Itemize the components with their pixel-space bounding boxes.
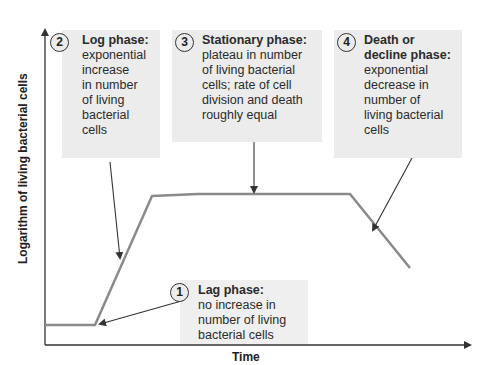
log-phase-line: increase: [82, 63, 155, 78]
stationary-phase-line: of living bacterial: [202, 63, 317, 78]
death-phase-line: decrease in: [364, 78, 457, 93]
death-phase-line: cells: [364, 123, 457, 138]
y-axis-label: Logarithm of living bacterial cells: [16, 94, 30, 264]
stationary-phase-line: cells; rate of cell: [202, 78, 317, 93]
lag-phase-box: 1 Lag phase: no increase in number of li…: [180, 280, 308, 344]
death-phase-title: decline phase:: [364, 48, 457, 63]
death-phase-line: living bacterial: [364, 108, 457, 123]
stationary-phase-line: division and death: [202, 93, 317, 108]
phase-number-1: 1: [170, 283, 189, 302]
log-phase-box: 2 Log phase: exponential increase in num…: [62, 30, 160, 158]
x-axis-label: Time: [232, 350, 260, 364]
lag-phase-line: number of living: [198, 313, 303, 328]
log-phase-line: of living: [82, 93, 155, 108]
lag-phase-line: no increase in: [198, 298, 303, 313]
stationary-phase-line: roughly equal: [202, 108, 317, 123]
log-phase-line: exponential: [82, 48, 155, 63]
stationary-phase-box: 3 Stationary phase: plateau in number of…: [172, 30, 322, 142]
death-phase-title: Death or: [364, 33, 457, 48]
phase-number-3: 3: [175, 33, 194, 52]
lag-phase-title: Lag phase:: [198, 283, 303, 298]
log-phase-line: bacterial: [82, 108, 155, 123]
death-phase-pointer: [373, 158, 412, 230]
stationary-phase-title: Stationary phase:: [202, 33, 317, 48]
lag-phase-pointer: [100, 300, 185, 324]
death-phase-line: number of: [364, 93, 457, 108]
log-phase-line: cells: [82, 123, 155, 138]
log-phase-line: in number: [82, 78, 155, 93]
death-phase-line: exponential: [364, 63, 457, 78]
stationary-phase-line: plateau in number: [202, 48, 317, 63]
death-phase-box: 4 Death or decline phase: exponential de…: [334, 30, 462, 158]
phase-number-2: 2: [50, 33, 69, 52]
lag-phase-line: bacterial cells: [198, 328, 303, 343]
log-phase-pointer: [110, 162, 120, 258]
log-phase-title: Log phase:: [82, 33, 155, 48]
phase-number-4: 4: [337, 33, 356, 52]
